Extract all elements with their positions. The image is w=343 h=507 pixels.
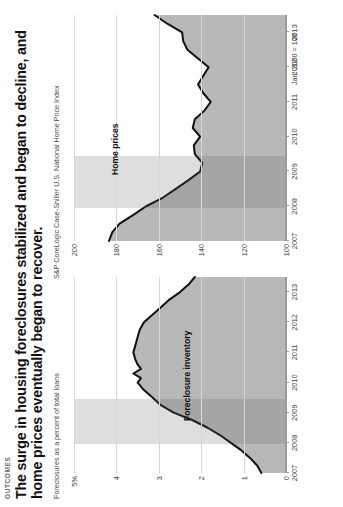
infographic-figure: OUTCOMES The surge in housing foreclosur… bbox=[0, 0, 343, 507]
gridline bbox=[201, 277, 202, 473]
y-axis-tick-label: 1 bbox=[239, 476, 248, 480]
y-axis-tick-label: 200 bbox=[70, 244, 79, 256]
x-axis-tick-label: 2011 bbox=[290, 94, 299, 110]
y-axis-tick-label: 3 bbox=[154, 476, 163, 480]
x-axis-tick bbox=[286, 205, 289, 206]
x-axis-tick-label: 2008 bbox=[290, 435, 299, 451]
y-axis-tick-label: 140 bbox=[197, 244, 206, 256]
x-axis-tick-label: 2013 bbox=[290, 284, 299, 300]
x-axis-tick-label: 2009 bbox=[290, 404, 299, 420]
x-axis-tick bbox=[286, 472, 289, 473]
x-axis-tick-label: 2012 bbox=[290, 314, 299, 330]
x-axis-tick bbox=[286, 321, 289, 322]
x-axis-tick bbox=[286, 442, 289, 443]
x-axis-line bbox=[285, 277, 286, 473]
chart-source-note: S&P CoreLogic Case-Shiller U.S. National… bbox=[52, 85, 61, 279]
section-kicker: OUTCOMES bbox=[4, 457, 11, 499]
chart-home-prices: 1001201401601802002007200820092010201120… bbox=[64, 9, 316, 271]
gridline bbox=[74, 277, 75, 473]
x-axis-tick bbox=[286, 240, 289, 241]
x-axis-line bbox=[285, 15, 286, 241]
series-label-home-prices: Home prices bbox=[110, 123, 120, 175]
gridline bbox=[244, 15, 245, 241]
x-axis-tick-label: 2007 bbox=[290, 233, 299, 249]
rotated-figure-frame: OUTCOMES The surge in housing foreclosur… bbox=[0, 0, 343, 507]
y-axis-tick-label: 4 bbox=[112, 476, 121, 480]
gridline bbox=[159, 277, 160, 473]
y-axis-tick-label: 180 bbox=[112, 244, 121, 256]
x-axis-tick-label: 2010 bbox=[290, 374, 299, 390]
x-axis-tick bbox=[286, 382, 289, 383]
recession-shading bbox=[74, 156, 286, 208]
x-axis-tick-label: 2007 bbox=[290, 465, 299, 481]
gridline bbox=[286, 15, 287, 241]
gridline bbox=[74, 15, 75, 241]
x-axis-tick bbox=[286, 170, 289, 171]
series-label-foreclosure: Foreclosure inventory bbox=[182, 331, 192, 421]
x-axis-tick bbox=[286, 101, 289, 102]
x-axis-tick-label: 2009 bbox=[290, 163, 299, 179]
x-axis-tick-label: 2008 bbox=[290, 198, 299, 214]
left-chart-unit-note: Foreclosures as a percent of total loans bbox=[52, 373, 61, 499]
gridline bbox=[201, 15, 202, 241]
gridline bbox=[286, 277, 287, 473]
gridline bbox=[244, 277, 245, 473]
gridline bbox=[159, 15, 160, 241]
y-axis-tick-label: 160 bbox=[154, 244, 163, 256]
page-title: The surge in housing foreclosures stabil… bbox=[13, 29, 46, 499]
x-axis-tick bbox=[286, 31, 289, 32]
x-axis-tick-label: 2010 bbox=[290, 128, 299, 144]
right-chart-unit-note: Jan. 2000 = 100 bbox=[290, 33, 299, 85]
x-axis-tick bbox=[286, 291, 289, 292]
chart-foreclosure-inventory: 012345%2007200820092010201120122013 Fore… bbox=[64, 271, 316, 499]
x-axis-tick bbox=[286, 351, 289, 352]
x-axis-tick-label: 2011 bbox=[290, 344, 299, 360]
x-axis-tick bbox=[286, 136, 289, 137]
y-axis-tick-label: 2 bbox=[197, 476, 206, 480]
gridline bbox=[116, 277, 117, 473]
y-axis-tick-label: 120 bbox=[239, 244, 248, 256]
recession-shading bbox=[74, 399, 286, 444]
x-axis-tick bbox=[286, 66, 289, 67]
plot-area-foreclosure: 012345%2007200820092010201120122013 bbox=[74, 277, 286, 473]
plot-area-home-prices: 1001201401601802002007200820092010201120… bbox=[74, 15, 286, 241]
x-axis-tick bbox=[286, 412, 289, 413]
y-axis-tick-label: 5% bbox=[70, 476, 79, 487]
